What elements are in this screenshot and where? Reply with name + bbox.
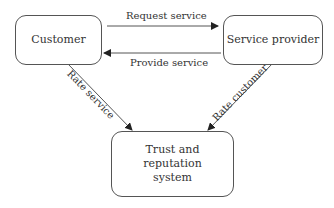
customer-label: Customer xyxy=(31,33,85,47)
request-service-label: Request service xyxy=(126,10,207,21)
service-provider-node: Service provider xyxy=(223,15,323,65)
trust-reputation-label: Trust and reputation system xyxy=(123,143,223,185)
provide-service-label: Provide service xyxy=(130,57,208,68)
trust-reputation-node: Trust and reputation system xyxy=(111,131,234,197)
service-provider-label: Service provider xyxy=(227,33,320,47)
customer-node: Customer xyxy=(15,15,102,65)
